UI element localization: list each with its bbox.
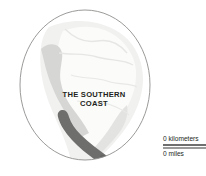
scale-miles-label: 0 miles — [163, 150, 206, 158]
scale-rule-miles — [163, 147, 206, 149]
region-label-line-2: COAST — [58, 99, 130, 108]
map-figure: THE SOUTHERN COAST 0 kilometers 0 miles — [0, 0, 206, 176]
map-svg — [19, 9, 151, 161]
circular-map-inset — [19, 9, 151, 161]
scale-rule-kilometers — [163, 144, 206, 146]
region-label: THE SOUTHERN COAST — [58, 90, 130, 108]
region-label-line-1: THE SOUTHERN — [58, 90, 130, 99]
scale-kilometers-label: 0 kilometers — [163, 135, 206, 143]
scale-bar: 0 kilometers 0 miles — [163, 135, 206, 158]
